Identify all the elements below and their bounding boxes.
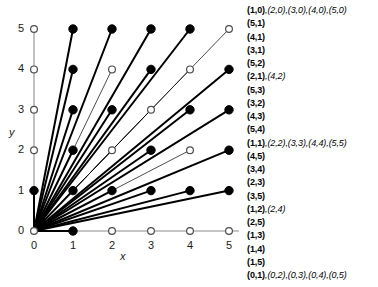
point-filled-2-3 xyxy=(108,106,116,114)
primitive-direction: (5,3) xyxy=(247,85,265,95)
point-filled-1-3 xyxy=(69,106,77,114)
hidden-multiples: ,(2,0),(3,0),(4,0),(5,0) xyxy=(265,5,347,15)
point-open-5-0 xyxy=(226,228,233,235)
primitive-direction: (1,3) xyxy=(247,230,265,240)
primitive-direction: (3,5) xyxy=(247,191,265,201)
point-open-2-4 xyxy=(109,66,116,73)
primitive-direction: (1,0) xyxy=(247,5,265,15)
x-tick-label-1: 1 xyxy=(63,240,83,251)
primitive-direction: (1,5) xyxy=(247,257,265,267)
point-filled-3-5 xyxy=(147,25,155,33)
list-item: (1,2),(2,4) xyxy=(247,203,378,216)
point-open-0-4 xyxy=(31,66,38,73)
point-filled-1-0 xyxy=(69,227,77,235)
primitive-direction: (4,5) xyxy=(247,151,265,161)
point-filled-2-1 xyxy=(108,186,116,194)
primitive-direction: (5,1) xyxy=(247,18,265,28)
list-item: (2,3) xyxy=(247,176,378,189)
list-item: (3,2) xyxy=(247,97,378,110)
point-filled-1-4 xyxy=(69,65,77,73)
point-open-2-0 xyxy=(109,228,116,235)
list-item: (5,1) xyxy=(247,17,378,30)
point-filled-5-2 xyxy=(225,146,233,154)
point-open-2-2 xyxy=(109,147,116,154)
hidden-multiples: ,(2,4) xyxy=(265,204,285,214)
point-filled-1-1 xyxy=(69,186,77,194)
list-item: (1,4) xyxy=(247,243,378,256)
primitive-direction: (4,3) xyxy=(247,111,265,121)
primitive-direction: (1,2) xyxy=(247,204,265,214)
primitive-direction: (2,3) xyxy=(247,177,265,187)
list-item: (0,1),(0,2),(0,3),(0,4),(0,5) xyxy=(247,269,378,282)
list-item: (1,5) xyxy=(247,256,378,269)
point-open-3-3 xyxy=(148,106,155,113)
x-tick-label-0: 0 xyxy=(24,240,44,251)
list-item: (5,4) xyxy=(247,123,378,136)
point-open-4-0 xyxy=(187,228,194,235)
lattice-visibility-figure: 012345012345 x y (1,0),(2,0),(3,0),(4,0)… xyxy=(0,0,378,287)
point-open-5-5 xyxy=(226,26,233,33)
ray-to-5-5 xyxy=(34,29,229,231)
primitive-direction: (3,1) xyxy=(247,45,265,55)
y-tick-label-5: 5 xyxy=(8,23,24,34)
list-item: (5,2) xyxy=(247,57,378,70)
direction-list: (1,0),(2,0),(3,0),(4,0),(5,0)(5,1)(4,1)(… xyxy=(247,4,378,282)
list-item: (1,3) xyxy=(247,229,378,242)
list-item: (1,0),(2,0),(3,0),(4,0),(5,0) xyxy=(247,4,378,17)
point-open-4-4 xyxy=(187,66,194,73)
list-item: (4,5) xyxy=(247,150,378,163)
primitive-direction: (5,4) xyxy=(247,124,265,134)
point-filled-3-1 xyxy=(147,186,155,194)
point-open-0-3 xyxy=(31,106,38,113)
x-axis-title: x xyxy=(120,250,126,262)
primitive-direction: (2,1) xyxy=(247,71,265,81)
hidden-multiples: ,(4,2) xyxy=(265,71,285,81)
y-axis-title: y xyxy=(9,126,15,138)
point-open-0-2 xyxy=(31,147,38,154)
point-filled-1-2 xyxy=(69,146,77,154)
y-tick-label-2: 2 xyxy=(8,144,24,155)
primitive-direction: (4,1) xyxy=(247,32,265,42)
point-filled-3-2 xyxy=(147,146,155,154)
x-tick-label-4: 4 xyxy=(180,240,200,251)
list-item: (2,5) xyxy=(247,216,378,229)
point-filled-2-5 xyxy=(108,25,116,33)
x-tick-label-5: 5 xyxy=(219,240,239,251)
primitive-direction: (2,5) xyxy=(247,217,265,227)
list-item: (3,4) xyxy=(247,163,378,176)
x-tick-label-2: 2 xyxy=(102,240,122,251)
point-filled-1-5 xyxy=(69,25,77,33)
list-item: (4,3) xyxy=(247,110,378,123)
point-filled-5-3 xyxy=(225,106,233,114)
point-filled-5-1 xyxy=(225,186,233,194)
point-filled-3-4 xyxy=(147,65,155,73)
primitive-direction: (3,2) xyxy=(247,98,265,108)
point-open-3-0 xyxy=(148,228,155,235)
list-item: (1,1),(2,2),(3,3),(4,4),(5,5) xyxy=(247,137,378,150)
y-tick-label-4: 4 xyxy=(8,63,24,74)
lattice-plot: 012345012345 x y xyxy=(0,0,248,287)
point-open-0-0 xyxy=(31,228,38,235)
point-filled-0-1 xyxy=(30,186,38,194)
y-tick-label-0: 0 xyxy=(8,225,24,236)
point-filled-5-4 xyxy=(225,65,233,73)
point-open-4-2 xyxy=(187,147,194,154)
list-item: (4,1) xyxy=(247,31,378,44)
x-tick-label-3: 3 xyxy=(141,240,161,251)
point-filled-4-3 xyxy=(186,106,194,114)
primitive-direction: (3,4) xyxy=(247,164,265,174)
y-tick-label-1: 1 xyxy=(8,185,24,196)
list-item: (3,1) xyxy=(247,44,378,57)
hidden-multiples: ,(2,2),(3,3),(4,4),(5,5) xyxy=(265,138,347,148)
primitive-direction: (0,1) xyxy=(247,270,265,280)
point-filled-4-1 xyxy=(186,186,194,194)
point-filled-4-5 xyxy=(186,25,194,33)
list-item: (5,3) xyxy=(247,84,378,97)
primitive-direction: (1,1) xyxy=(247,138,265,148)
point-open-0-5 xyxy=(31,26,38,33)
primitive-direction: (5,2) xyxy=(247,58,265,68)
list-item: (3,5) xyxy=(247,190,378,203)
hidden-multiples: ,(0,2),(0,3),(0,4),(0,5) xyxy=(265,270,347,280)
primitive-direction: (1,4) xyxy=(247,244,265,254)
list-item: (2,1),(4,2) xyxy=(247,70,378,83)
